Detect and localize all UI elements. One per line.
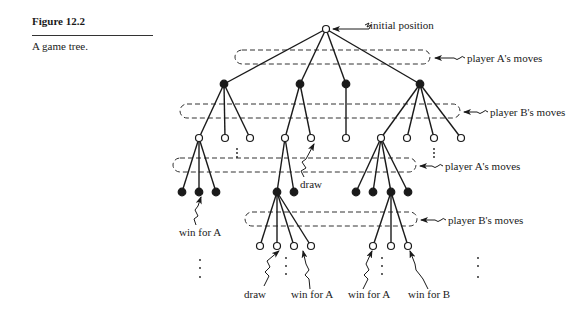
move-groups	[173, 50, 460, 226]
label-initial-position: initial position	[370, 19, 434, 31]
label-win-for-a-1: win for A	[179, 226, 221, 238]
label-draw-1: draw	[300, 178, 322, 190]
label-player-a-moves-1: player A's moves	[467, 52, 542, 64]
group-player-b-moves-1	[180, 104, 460, 118]
label-win-for-a-2: win for A	[291, 288, 333, 300]
game-tree-diagram: initial position player A's moves player…	[0, 0, 582, 315]
label-win-for-a-3: win for A	[348, 288, 390, 300]
label-player-b-moves-2: player B's moves	[448, 214, 523, 226]
label-player-a-moves-2: player A's moves	[445, 160, 520, 172]
label-win-for-b: win for B	[408, 288, 450, 300]
label-player-b-moves-1: player B's moves	[490, 106, 565, 118]
tree-nodes	[178, 26, 464, 250]
ellipsis-dots	[199, 148, 479, 278]
label-draw-2: draw	[244, 288, 266, 300]
node-root	[323, 26, 330, 33]
